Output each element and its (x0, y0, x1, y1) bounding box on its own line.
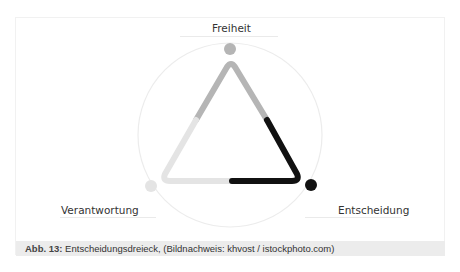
edge-freiheit (196, 64, 267, 120)
label-freiheit: Freiheit (212, 22, 251, 34)
edge-entscheidung (232, 120, 298, 181)
label-freiheit-rule (180, 36, 278, 37)
label-entscheidung: Entscheidung (338, 204, 409, 216)
label-verantwortung: Verantwortung (61, 204, 139, 216)
label-entscheidung-rule (305, 217, 401, 218)
surrounding-circle (138, 43, 322, 227)
label-verantwortung-rule (60, 217, 156, 218)
dot-verantwortung (145, 180, 157, 192)
caption-text: Entscheidungsdreieck, (Bildnachweis: khv… (62, 243, 334, 254)
figure-caption: Abb. 13: Entscheidungsdreieck, (Bildnach… (16, 241, 445, 256)
dot-freiheit (224, 43, 236, 55)
dot-entscheidung (305, 179, 317, 191)
edge-verantwortung (164, 120, 232, 181)
caption-prefix: Abb. 13: (25, 243, 62, 254)
